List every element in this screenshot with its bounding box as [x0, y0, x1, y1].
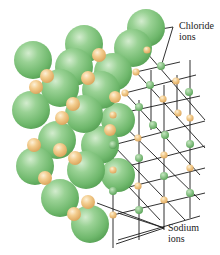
lattice-node-sodium [109, 111, 116, 118]
lattice-node-sodium [160, 196, 167, 203]
lattice-node-chloride [185, 88, 193, 96]
chloride-label-line2: ions [179, 31, 214, 42]
lattice-node-chloride [109, 187, 117, 195]
lattice-node-sodium [143, 46, 150, 53]
lattice-node-chloride [135, 154, 143, 162]
sodium-label: Sodium ions [168, 222, 199, 244]
lattice-node-sodium [109, 211, 116, 218]
chloride-ion-sphere [12, 91, 50, 129]
lattice-node-chloride [135, 206, 143, 214]
lattice-node-chloride [149, 121, 157, 129]
sodium-ion-sphere [53, 143, 67, 157]
lattice-node-sodium [172, 77, 179, 84]
lattice-node-chloride [161, 131, 169, 139]
lattice-node-sodium [121, 89, 128, 96]
lattice-node-sodium [159, 95, 166, 102]
lattice-node-chloride [186, 189, 194, 197]
lattice-node-sodium [134, 134, 141, 141]
lattice-node-sodium [109, 166, 116, 173]
lattice-node-sodium [186, 114, 193, 121]
sodium-ion-sphere [68, 151, 82, 165]
lattice-node-chloride [157, 62, 165, 70]
sodium-ion-sphere [92, 48, 106, 62]
sodium-ion-sphere [81, 195, 95, 209]
sodium-ion-sphere [104, 124, 116, 136]
chloride-ion-sphere [101, 158, 135, 192]
lattice-node-sodium [134, 182, 141, 189]
sodium-ion-sphere [81, 71, 95, 85]
chloride-label: Chloride ions [179, 20, 214, 42]
lattice-node-sodium [186, 164, 193, 171]
sodium-ion-sphere [27, 138, 41, 152]
sodium-ion-sphere [29, 80, 43, 94]
lattice-node-chloride [186, 140, 194, 148]
sodium-ion-sphere [40, 69, 54, 83]
sodium-ion-sphere [66, 97, 80, 111]
lattice-node-chloride [109, 141, 117, 149]
lattice-node-chloride [160, 172, 168, 180]
sodium-label-line2: ions [168, 233, 199, 244]
sodium-ion-sphere [38, 171, 52, 185]
lattice-node-sodium [132, 68, 139, 75]
lattice-node-chloride [146, 81, 154, 89]
sodium-ion-sphere [67, 207, 81, 221]
sodium-ion-sphere [55, 111, 69, 125]
chloride-label-line1: Chloride [179, 20, 214, 31]
lattice-node-sodium [160, 151, 167, 158]
lattice-node-sodium [174, 109, 181, 116]
sodium-label-line1: Sodium [168, 222, 199, 233]
lattice-node-chloride [135, 103, 143, 111]
sodium-ion-sphere [109, 91, 121, 103]
